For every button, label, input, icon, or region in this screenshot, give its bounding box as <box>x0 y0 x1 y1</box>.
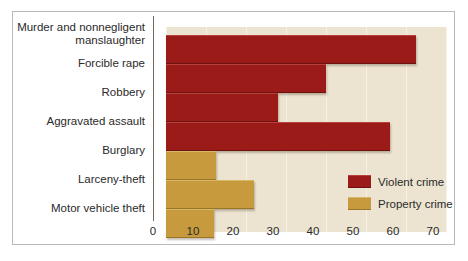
x-tick-0: 0 <box>133 225 173 237</box>
category-label-aggravated-assault: Aggravated assault <box>47 115 145 128</box>
x-tick-50: 50 <box>333 225 373 237</box>
x-tick-70: 70 <box>413 225 453 237</box>
bar-robbery[interactable] <box>166 93 278 122</box>
legend-item-violent-crime: Violent crime <box>348 175 453 188</box>
bar-burglary[interactable] <box>166 151 216 180</box>
bar-forcible-rape[interactable] <box>166 64 326 93</box>
legend-label-violent-crime: Violent crime <box>378 176 444 188</box>
legend-item-property-crime: Property crime <box>348 197 453 210</box>
plot-area: Violent crime Property crime <box>166 27 446 232</box>
bar-larceny-theft[interactable] <box>166 180 254 209</box>
category-label-larceny-theft: Larceny-theft <box>78 173 145 186</box>
x-tick-40: 40 <box>293 225 333 237</box>
category-label-robbery: Robbery <box>102 86 145 99</box>
chart-figure: Violent crime Property crime Murder and … <box>0 0 468 261</box>
x-tick-20: 20 <box>213 225 253 237</box>
legend-swatch-property-crime <box>348 197 371 210</box>
legend-label-property-crime: Property crime <box>378 198 453 210</box>
y-axis-line <box>153 16 154 221</box>
bar-murder-and-nonnegligent-manslaughter[interactable] <box>166 35 416 64</box>
category-label-forcible-rape: Forcible rape <box>78 57 145 70</box>
category-label-murder-and-nonnegligent-manslaughter: Murder and nonnegligent manslaughter <box>17 21 145 47</box>
legend-swatch-violent-crime <box>348 175 371 188</box>
x-tick-30: 30 <box>253 225 293 237</box>
category-label-motor-vehicle-theft: Motor vehicle theft <box>51 202 145 215</box>
category-label-burglary: Burglary <box>102 144 145 157</box>
chart-legend: Violent crime Property crime <box>348 175 453 219</box>
chart-frame: Violent crime Property crime Murder and … <box>12 11 455 245</box>
x-tick-10: 10 <box>173 225 213 237</box>
x-tick-60: 60 <box>373 225 413 237</box>
bar-aggravated-assault[interactable] <box>166 122 390 151</box>
